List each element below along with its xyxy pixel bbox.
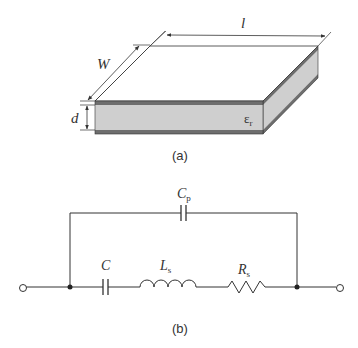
capacitor-cp-symbol (181, 205, 186, 221)
right-terminal (337, 285, 344, 292)
width-label: W (97, 56, 111, 72)
thickness-label: d (71, 110, 79, 126)
parallel-branch-wire (70, 213, 181, 287)
label-c: C (101, 258, 111, 273)
capacitor-c-symbol (103, 279, 108, 295)
figure-canvas: l W d εr (a) Cp C Ls (0, 0, 358, 348)
resistor-rs-symbol (228, 281, 268, 293)
left-terminal (20, 285, 27, 292)
label-cp: Cp (177, 186, 191, 203)
equivalent-circuit (26, 205, 336, 295)
caption-a: (a) (172, 148, 188, 163)
label-ls: Ls (159, 258, 172, 275)
label-rs: Rs (237, 262, 251, 279)
front-dielectric (95, 105, 263, 130)
left-junction-node (68, 285, 73, 290)
front-top-electrode (95, 101, 263, 105)
parallel-plate-capacitor-block: l W d εr (a) (71, 15, 331, 163)
front-bottom-electrode (95, 130, 263, 134)
right-junction-node (295, 285, 300, 290)
length-dimension-line (167, 35, 325, 36)
length-label: l (241, 15, 245, 31)
inductor-ls-symbol (140, 280, 196, 287)
caption-b: (b) (172, 321, 188, 336)
